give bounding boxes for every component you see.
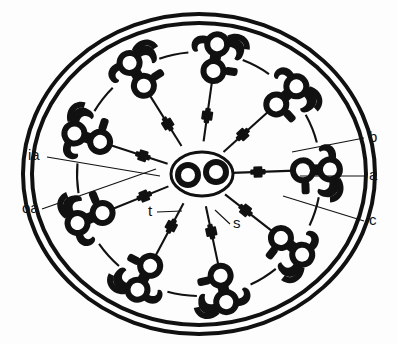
axoneme-figure-svg: iaoabacts (0, 0, 398, 344)
axoneme-diagram: iaoabacts (0, 0, 398, 344)
central-microtubule-c2 (203, 159, 229, 185)
label-a: a (369, 166, 378, 183)
label-c: c (369, 211, 377, 228)
label-s: s (233, 214, 241, 231)
central-microtubule-c1 (175, 162, 201, 188)
label-ia: ia (28, 146, 40, 163)
central-pair-group (171, 152, 233, 196)
label-b: b (369, 128, 377, 145)
label-oa: oa (22, 199, 39, 216)
